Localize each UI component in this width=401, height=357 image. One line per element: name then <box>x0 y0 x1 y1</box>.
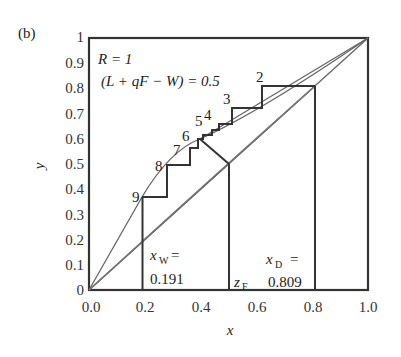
svg-text:0: 0 <box>77 282 85 298</box>
y-axis-label: y <box>31 162 47 171</box>
svg-text:5: 5 <box>195 113 203 129</box>
svg-text:0.1: 0.1 <box>65 257 84 273</box>
svg-text:0.3: 0.3 <box>65 207 84 223</box>
svg-text:x: x <box>265 251 273 267</box>
svg-text:0.809: 0.809 <box>268 274 302 290</box>
svg-text:0.4: 0.4 <box>192 299 211 315</box>
xw-annotation: x W = 0.191 <box>149 247 184 287</box>
reflux-annotation: R = 1 <box>97 51 132 67</box>
svg-text:2: 2 <box>256 69 264 85</box>
xd-annotation: x D = 0.809 <box>265 251 302 290</box>
svg-text:W: W <box>159 255 169 266</box>
svg-text:0.6: 0.6 <box>65 131 84 147</box>
svg-text:0.8: 0.8 <box>65 80 84 96</box>
svg-text:8: 8 <box>155 158 163 174</box>
svg-text:0.191: 0.191 <box>150 271 184 287</box>
svg-text:0.2: 0.2 <box>65 232 84 248</box>
stage-labels: 2 3 4 5 6 7 8 9 <box>132 69 264 205</box>
svg-text:=: = <box>290 251 298 267</box>
svg-text:0.0: 0.0 <box>82 299 101 315</box>
condition-annotation: (L + qF − W) = 0.5 <box>101 73 220 90</box>
svg-text:6: 6 <box>182 128 190 144</box>
svg-text:0.6: 0.6 <box>248 299 267 315</box>
svg-text:9: 9 <box>132 189 140 205</box>
svg-text:F: F <box>242 281 248 292</box>
svg-text:0.9: 0.9 <box>65 55 84 71</box>
svg-text:1: 1 <box>77 29 85 45</box>
svg-text:D: D <box>275 259 282 270</box>
svg-text:1.0: 1.0 <box>359 299 378 315</box>
svg-text:7: 7 <box>173 142 181 158</box>
svg-text:0.2: 0.2 <box>136 299 155 315</box>
svg-text:3: 3 <box>223 91 231 107</box>
svg-text:0.4: 0.4 <box>65 181 84 197</box>
svg-text:=: = <box>171 247 179 263</box>
y-axis-ticks: 0 0.1 0.2 0.3 0.4 0.5 0.6 0.7 0.8 0.9 1 <box>65 29 84 298</box>
mccabe-thiele-chart: 0 0.1 0.2 0.3 0.4 0.5 0.6 0.7 0.8 0.9 1 … <box>0 0 401 357</box>
x-axis-label: x <box>226 322 234 338</box>
svg-text:0.7: 0.7 <box>65 106 84 122</box>
svg-text:4: 4 <box>204 107 212 123</box>
svg-text:x: x <box>149 247 157 263</box>
panel-label: (b) <box>18 25 36 42</box>
x-axis-ticks: 0.0 0.2 0.4 0.6 0.8 1.0 <box>82 299 378 315</box>
feed-line <box>200 139 229 164</box>
svg-text:0.5: 0.5 <box>65 156 84 172</box>
svg-text:0.8: 0.8 <box>304 299 323 315</box>
svg-text:z: z <box>233 274 240 290</box>
